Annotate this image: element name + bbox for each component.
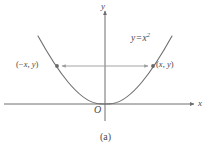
y-axis-label: y (101, 2, 105, 11)
curve-equation-exponent: 2 (147, 31, 150, 38)
figure-caption: (a) (0, 131, 211, 142)
curve-equation-label: y=x2 (131, 32, 150, 44)
left-point-close-paren: ) (35, 59, 38, 69)
left-point-label: (−x, y) (16, 60, 38, 69)
origin-label: O (94, 105, 101, 115)
x-axis-label: x (198, 99, 202, 108)
parabola-figure: y x O y=x2 (−x, y) (x, y) (a) (0, 0, 211, 155)
right-point-label: (x, y) (156, 60, 174, 69)
curve-equation-operator: = (135, 33, 142, 43)
point-marker-left (55, 64, 59, 68)
right-point-close-paren: ) (171, 59, 174, 69)
point-marker-right (151, 64, 155, 68)
